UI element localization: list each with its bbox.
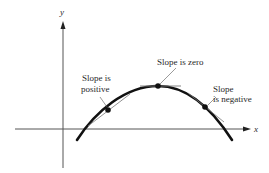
label-negative-line2: is negative [213,94,252,104]
curve [77,86,232,140]
label-zero: Slope is zero [157,57,204,67]
point-zero-slope [155,83,161,89]
y-axis-label: y [59,7,64,17]
label-positive-line1: Slope is [82,73,111,83]
leader-positive [100,97,107,107]
point-positive-slope [105,107,111,113]
x-axis-arrow-icon [243,127,251,132]
label-negative-line1: Slope [213,84,234,94]
slope-diagram: y x Slope is positive Slope is zero Slop… [0,0,269,173]
point-negative-slope [202,104,208,110]
y-axis-arrow-icon [61,21,66,29]
label-positive-line2: positive [81,84,110,94]
y-axis: y [59,7,66,168]
leader-zero [160,68,176,84]
x-axis-label: x [253,124,258,134]
